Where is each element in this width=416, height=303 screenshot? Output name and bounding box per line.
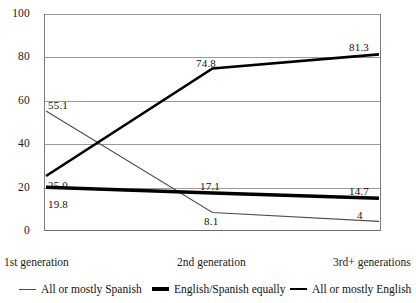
series-line-all-or-mostly-english (46, 54, 379, 176)
legend-swatch-all-or-mostly-spanish (19, 289, 36, 290)
point-label-spanish-g1: 55.1 (48, 100, 68, 111)
x-category-label-3rd-generations: 3rd+ generations (333, 256, 411, 268)
legend-label-all-or-mostly-english: All or mostly English (312, 283, 411, 295)
legend-label-english-spanish-equally: English/Spanish equally (174, 283, 285, 295)
legend-item-all-or-mostly-english[interactable]: All or mostly English (290, 283, 411, 295)
line-chart: 100 80 60 40 20 0 55.1 25.0 19.8 74.8 17… (0, 0, 416, 303)
point-label-equally-g2: 17.1 (200, 181, 220, 192)
point-label-spanish-g3: 4 (357, 210, 363, 221)
series-line-all-or-mostly-spanish (46, 111, 379, 221)
legend-label-all-or-mostly-spanish: All or mostly Spanish (41, 283, 142, 295)
legend-item-english-spanish-equally[interactable]: English/Spanish equally (152, 283, 285, 295)
legend-swatch-all-or-mostly-english (290, 288, 307, 290)
x-category-label-1st-generation: 1st generation (4, 256, 69, 268)
legend-item-all-or-mostly-spanish[interactable]: All or mostly Spanish (19, 283, 142, 295)
point-label-english-g1: 25.0 (48, 180, 68, 191)
point-label-spanish-g2: 8.1 (204, 216, 218, 227)
point-label-equally-g3: 14.7 (349, 186, 369, 197)
x-category-label-2nd-generation: 2nd generation (177, 256, 246, 268)
legend-swatch-english-spanish-equally (152, 287, 169, 291)
point-label-english-g2: 74.8 (196, 58, 216, 69)
legend: All or mostly Spanish English/Spanish eq… (0, 283, 416, 301)
point-label-english-g3: 81.3 (349, 42, 369, 53)
point-label-equally-g1: 19.8 (48, 199, 68, 210)
